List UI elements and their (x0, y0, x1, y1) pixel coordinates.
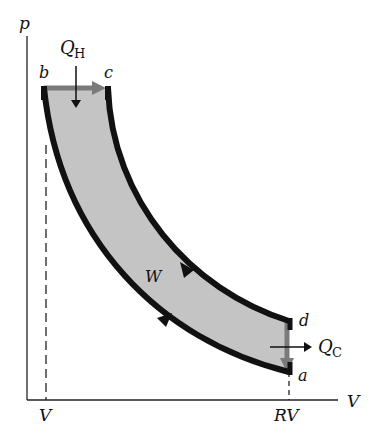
svg-text:H: H (74, 46, 85, 61)
point-c-label: c (104, 63, 113, 82)
tick-rv-label: RV (273, 405, 300, 425)
v-axis-label: V (347, 391, 361, 411)
point-b-label: b (39, 63, 49, 82)
point-a-label: a (298, 366, 308, 385)
qh-label: Q H (60, 37, 85, 61)
qc-label: Q C (318, 336, 342, 360)
p-axis-label: p (19, 13, 30, 33)
qc-arrow-icon (304, 342, 312, 352)
work-label: W (145, 267, 163, 286)
svg-text:Q: Q (318, 336, 333, 357)
tick-v-label: V (39, 405, 53, 425)
cycle-area (44, 88, 289, 372)
svg-text:C: C (332, 345, 342, 360)
point-d-label: d (299, 311, 309, 330)
svg-text:Q: Q (60, 37, 75, 58)
pv-diagram: p V V RV b c d a W Q H Q C (0, 0, 386, 445)
